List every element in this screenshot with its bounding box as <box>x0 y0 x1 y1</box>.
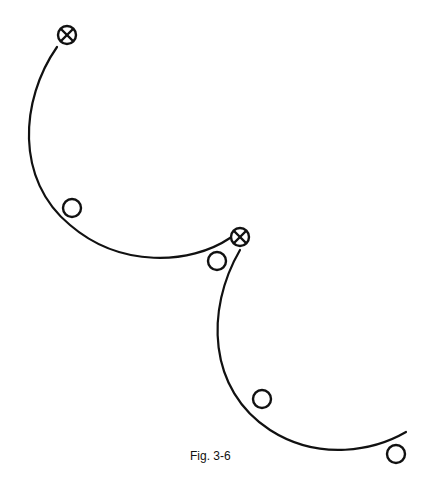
arc-upper <box>29 47 230 258</box>
diagram-canvas <box>0 0 431 496</box>
open-circle-icon <box>253 390 271 408</box>
arc-lower <box>218 250 406 450</box>
crossed-circle-icon <box>231 228 249 246</box>
figure: Fig. 3-6 <box>0 0 431 496</box>
open-circle-icon <box>63 199 81 217</box>
figure-caption: Fig. 3-6 <box>190 449 231 463</box>
open-circle-icon <box>208 252 226 270</box>
crossed-circle-icon <box>58 26 76 44</box>
open-circle-icon <box>387 445 405 463</box>
